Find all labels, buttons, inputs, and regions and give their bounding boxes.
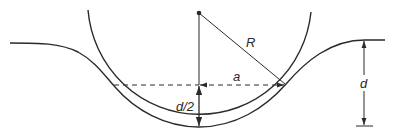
diagram-canvas: R a d/2 d — [0, 0, 393, 136]
half-depth-label: d/2 — [176, 99, 195, 114]
radius-label: R — [246, 35, 255, 50]
diagram-svg: R a d/2 d — [0, 0, 393, 136]
half-width-label: a — [233, 69, 240, 84]
depth-label: d — [360, 76, 368, 91]
radius-line — [199, 13, 285, 84]
